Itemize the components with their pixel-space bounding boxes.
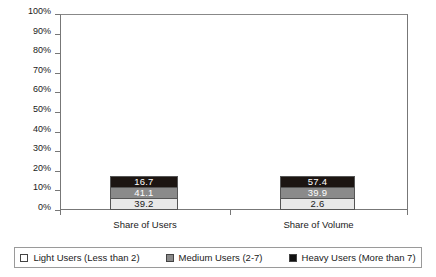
bar-segment-light[interactable]: 39.2 — [110, 198, 178, 210]
x-axis-label-share-of-volume: Share of Volume — [230, 219, 407, 230]
y-axis: 100% 90% 80% 70% 60% 50% 40% 30% 20% 10%… — [0, 14, 60, 210]
legend-swatch-light-icon — [20, 254, 28, 262]
bars-layer: 16.7 41.1 39.2 57.4 39.9 2.6 — [60, 14, 408, 210]
bar-segment-light[interactable]: 2.6 — [280, 198, 355, 210]
y-tick-label: 100% — [28, 7, 51, 16]
stacked-bar: 16.7 41.1 39.2 — [110, 176, 178, 210]
x-axis-label-share-of-users: Share of Users — [60, 219, 230, 230]
x-tick-mark — [60, 210, 61, 215]
y-tick-label: 20% — [33, 164, 51, 173]
bar-segment-heavy[interactable]: 57.4 — [280, 176, 355, 187]
bar-value-label: 57.4 — [308, 177, 327, 187]
y-tick-label: 50% — [33, 105, 51, 114]
y-tick-label: 80% — [33, 46, 51, 55]
x-tick-mark — [407, 210, 408, 215]
legend-label-light: Light Users (Less than 2) — [33, 252, 139, 263]
x-tick-mark — [230, 210, 231, 215]
legend-item-medium[interactable]: Medium Users (2-7) — [166, 252, 263, 263]
bar-value-label: 39.2 — [134, 199, 153, 209]
legend-swatch-heavy-icon — [289, 254, 297, 262]
bar-value-label: 41.1 — [134, 188, 153, 198]
stacked-bar: 57.4 39.9 2.6 — [280, 176, 355, 210]
bar-group-share-of-volume: 57.4 39.9 2.6 — [280, 14, 355, 210]
y-tick-label: 70% — [33, 66, 51, 75]
y-tick-label: 90% — [33, 27, 51, 36]
bar-value-label: 2.6 — [311, 199, 325, 209]
stacked-bar-chart: 100% 90% 80% 70% 60% 50% 40% 30% 20% 10%… — [0, 0, 436, 277]
bar-segment-medium[interactable]: 39.9 — [280, 187, 355, 198]
legend-label-medium: Medium Users (2-7) — [179, 252, 263, 263]
legend-swatch-medium-icon — [166, 254, 174, 262]
bar-group-share-of-users: 16.7 41.1 39.2 — [110, 14, 178, 210]
y-tick-label: 60% — [33, 85, 51, 94]
legend-item-heavy[interactable]: Heavy Users (More than 7) — [289, 252, 416, 263]
legend-label-heavy: Heavy Users (More than 7) — [302, 252, 416, 263]
x-axis: Share of Users Share of Volume — [60, 210, 408, 240]
y-tick-label: 30% — [33, 144, 51, 153]
chart-legend: Light Users (Less than 2) Medium Users (… — [14, 247, 422, 268]
bar-value-label: 39.9 — [308, 188, 327, 198]
y-tick-label: 40% — [33, 125, 51, 134]
bar-value-label: 16.7 — [134, 177, 153, 187]
y-tick-label: 10% — [33, 183, 51, 192]
bar-segment-medium[interactable]: 41.1 — [110, 187, 178, 198]
legend-item-light[interactable]: Light Users (Less than 2) — [20, 252, 139, 263]
bar-segment-heavy[interactable]: 16.7 — [110, 176, 178, 187]
y-tick-label: 0% — [38, 203, 51, 212]
